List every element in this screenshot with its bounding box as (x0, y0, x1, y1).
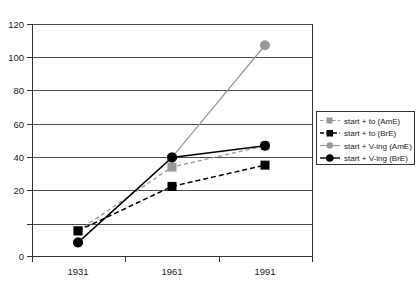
data-point-circle (260, 40, 270, 50)
y-tick-label: 40 (13, 152, 24, 163)
x-tick-label: 1961 (161, 266, 182, 277)
x-tick-label: 1931 (67, 266, 88, 277)
legend-label: start + to (BrE) (344, 129, 397, 138)
y-tick-marks (27, 24, 32, 256)
x-tick-label: 1991 (254, 266, 275, 277)
plot-background (32, 24, 312, 256)
y-tick-label: 80 (13, 85, 24, 96)
legend-label: start + to (AmE) (344, 117, 401, 126)
data-point-square (261, 161, 270, 170)
y-tick-label: 100 (8, 52, 24, 63)
legend-marker-circle (327, 142, 333, 148)
data-point-square (168, 182, 177, 191)
y-axis-labels: 120 100 80 60 40 20 0 (8, 19, 24, 262)
data-point-circle (260, 141, 270, 151)
data-point-circle (167, 152, 177, 162)
legend-label: start + V-ing (BrE) (344, 154, 408, 163)
legend-marker-square (327, 130, 334, 137)
legend-label: start + V-ing (AmE) (344, 142, 412, 151)
line-chart: 120 100 80 60 40 20 0 1931 1961 1991 (0, 0, 417, 290)
data-point-circle (73, 237, 83, 247)
legend: start + to (AmE) start + to (BrE) start … (316, 111, 414, 164)
chart-container: 120 100 80 60 40 20 0 1931 1961 1991 (0, 0, 417, 290)
x-tick-marks (32, 256, 312, 262)
y-tick-label: 120 (8, 19, 24, 30)
data-point-square (74, 226, 83, 235)
legend-marker-square (327, 118, 333, 124)
data-point-square (168, 163, 177, 172)
y-tick-label: 20 (13, 185, 24, 196)
x-axis-labels: 1931 1961 1991 (67, 266, 275, 277)
y-tick-label: 0 (19, 251, 24, 262)
legend-marker-circle (326, 154, 334, 162)
y-tick-label: 60 (13, 119, 24, 130)
